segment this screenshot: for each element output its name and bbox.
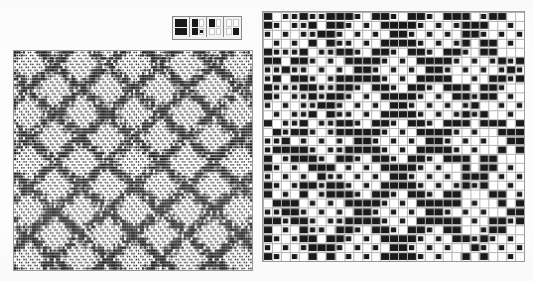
legend-quadrant [175,28,187,36]
draft-coarse-canvas [263,12,524,261]
legend-quadrant [199,19,205,27]
legend-quadrant [209,28,215,36]
legend-quadrant [226,19,232,27]
legend-quadrant [216,28,222,36]
figure-canvas [0,0,533,281]
legend-quadrant [192,28,198,36]
legend-quadrant [192,19,198,27]
draft-panel-fine [13,50,253,271]
legend-quadrant [233,19,239,27]
draft-fine-canvas [14,51,252,270]
pattern-key-legend [172,16,242,40]
legend-tile-left-dark-with-dot [190,17,207,37]
legend-tile-top-left-dark [207,17,224,37]
legend-tile-bottom-right-dark [224,17,241,37]
legend-tile-full-dark-bars [173,17,190,37]
draft-panel-coarse [262,11,525,262]
legend-quadrant [199,28,205,36]
legend-quadrant [175,19,187,27]
legend-quadrant [209,19,215,27]
legend-quadrant [226,28,232,36]
legend-quadrant [216,19,222,27]
legend-quadrant [233,28,239,36]
